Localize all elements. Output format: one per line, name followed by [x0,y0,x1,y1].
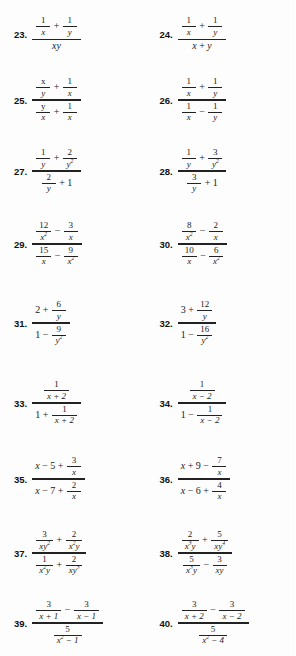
inner-fraction: 15x [36,246,51,267]
fraction-denominator: x − 2 [197,416,222,426]
problem-37[interactable]: 37.3xy2+2x2y1x2y+2xy3 [0,516,148,590]
math-operator: + [197,41,208,52]
problem-40[interactable]: 40.3x + 2−3x − 25x2 − 4 [148,590,296,656]
fraction-numerator-text: 1 [210,77,221,87]
math-expression: 3x + 1−3x − 15x2 − 1 [31,600,104,646]
problem-number: 26. [160,95,173,106]
problem-25[interactable]: 25.xy+1xyx+1x [0,64,148,136]
inner-fraction: 1y [208,16,222,37]
fraction-denominator-text: y [187,160,191,169]
fraction-numerator-text: 3 [227,600,238,610]
problem-39[interactable]: 39.3x + 1−3x − 15x2 − 1 [0,590,148,656]
fraction-denominator: x [39,257,49,267]
fraction-denominator-text: xy2 [39,542,50,551]
fraction-denominator: x + 1 [36,611,61,621]
fraction-numerator-text: 1 [39,555,50,565]
inner-fraction: 3xy [213,555,227,576]
problem-27[interactable]: 27.1y+2y22y+1 [0,136,148,206]
fraction-numerator-text: 12 [36,221,51,231]
problem-number: 23. [14,29,27,40]
problem-29[interactable]: 29.12x2−3x15x−9x2 [0,206,148,282]
complex-fraction-numerator: 1x+1y [32,16,81,38]
fraction-numerator-text: 2 [69,530,80,540]
math-operator: − [197,107,208,118]
fraction-numerator-text: 3 [39,530,50,540]
problem-23[interactable]: 23.1x+1yxy [0,4,148,64]
problem-24[interactable]: 24.1x+1yx+y [148,4,296,64]
math-operator: − [40,486,51,497]
inner-fraction: 1y [208,102,222,123]
problem-row: 29.12x2−3x15x−9x230.8x2−2x10x−6x2 [0,206,295,282]
fraction-numerator-text: 1 [65,16,76,26]
fraction-numerator-text: 2 [69,481,80,491]
math-operator: − [62,605,73,616]
complex-fraction: 1x+1yx+y [178,16,227,51]
inner-fraction: 7x [212,456,226,477]
fraction-denominator: x − 2 [190,391,215,401]
problem-row: 39.3x + 1−3x − 15x2 − 140.3x + 2−3x − 25… [0,590,295,656]
fraction-denominator: x2y [66,541,83,551]
fraction-denominator-text: x − 2 [222,612,241,621]
problem-number: 28. [160,166,173,177]
fraction-numerator-text: 5 [208,625,219,635]
complex-fraction-denominator: 1x2y+2xy3 [32,554,86,576]
problem-number: 36. [160,474,173,485]
inner-fraction: 12x2 [36,221,51,242]
inner-fraction: 3x [67,456,81,477]
problem-38[interactable]: 38.2x3y+5xy45x3y−3xy [148,516,296,590]
inner-fraction: 1x [182,77,196,98]
complex-fraction-denominator: yx+1x [32,101,81,123]
fraction-denominator-text: y [47,184,51,193]
fraction-denominator-text: x − 2 [200,416,219,425]
fraction-denominator-text: x [187,113,191,122]
fraction-denominator-text: x [217,492,221,501]
fraction-denominator: x − 2 [219,611,244,621]
complex-fraction-denominator: x−6+4x [178,480,231,502]
problem-32[interactable]: 32.3+12y1−16y2 [148,282,296,364]
fraction-numerator-text: 3 [81,600,92,610]
fraction-denominator: x2 [210,257,223,267]
math-operator: + [197,21,208,32]
problem-35[interactable]: 35.x−5+3xx−7+2x [0,442,148,516]
fraction-denominator: x [214,467,224,477]
complex-fraction: 3x + 2−3x − 25x2 − 4 [178,600,249,646]
math-operator: − [201,461,212,472]
fraction-denominator-text: x + 2 [55,416,74,425]
math-operator: + [40,305,51,316]
math-expression: xy+1xyx+1x [31,77,82,123]
inner-fraction: 1x2y [36,555,53,576]
complex-fraction-numerator: 3+12y [178,300,217,322]
problem-34[interactable]: 34.1x − 21−1x − 2 [148,364,296,442]
complex-fraction-denominator: 10x−6x2 [178,245,228,267]
problem-number: 39. [14,618,27,629]
complex-fraction-numerator: 3x + 2−3x − 2 [178,600,249,622]
inner-fraction: 1y [208,77,222,98]
fraction-denominator-text: x [187,89,191,98]
inner-fraction: 3x + 2 [182,600,207,621]
fraction-denominator-text: x [217,468,221,477]
fraction-denominator: x [65,113,75,123]
complex-fraction: x−5+3xx−7+2x [32,456,85,502]
problem-31[interactable]: 31.2+6y1−9y2 [0,282,148,364]
problem-number: 40. [160,618,173,629]
complex-fraction: x+9−7xx−6+4x [178,456,231,502]
complex-fraction: 1x+1y1x−1y [178,77,227,123]
fraction-numerator-text: 1 [59,405,70,415]
problem-36[interactable]: 36.x+9−7xx−6+4x [148,442,296,516]
problem-30[interactable]: 30.8x2−2x10x−6x2 [148,206,296,282]
problem-number: 32. [160,318,173,329]
problem-33[interactable]: 33.1x + 21+1x + 2 [0,364,148,442]
math-operator: − [201,560,212,571]
problem-28[interactable]: 28.1y+3y23y+1 [148,136,296,206]
fraction-denominator-text: y2 [201,336,208,345]
problem-grid: 23.1x+1yxy24.1x+1yx+y25.xy+1xyx+1x26.1x+… [0,0,295,656]
fraction-denominator: x3y [183,566,200,576]
inner-fraction: 3x [64,221,78,242]
fraction-numerator-text: 3 [214,555,225,565]
inner-fraction: yx [36,102,50,123]
fraction-denominator: y [210,27,220,37]
fraction-numerator-text: x [38,77,49,87]
fraction-denominator: y [189,184,199,194]
math-expression: 12x2−3x15x−9x2 [31,221,83,267]
problem-26[interactable]: 26.1x+1y1x−1y [148,64,296,136]
